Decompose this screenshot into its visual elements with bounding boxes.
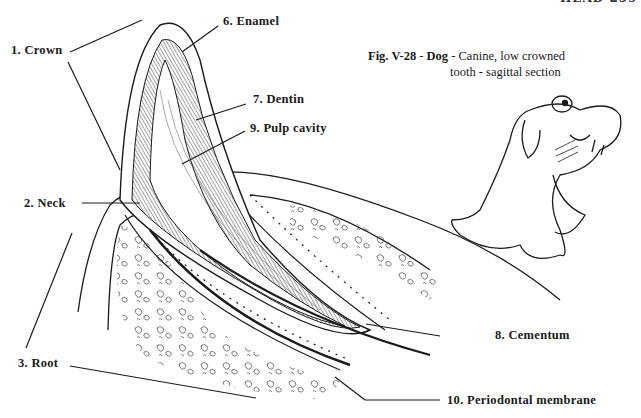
label-root: 3. Root bbox=[18, 356, 58, 371]
dog-head-illustration bbox=[452, 96, 621, 258]
label-crown: 1. Crown bbox=[11, 43, 62, 58]
label-periodontal-membrane: 10. Periodontal membrane bbox=[447, 393, 596, 408]
figure-caption: Fig. V-28 - Dog - Canine, low crowned to… bbox=[368, 48, 565, 80]
figure-number: Fig. V-28 bbox=[368, 49, 416, 63]
figure-caption-line2: tooth - sagittal section bbox=[368, 64, 565, 80]
label-enamel: 6. Enamel bbox=[223, 14, 279, 29]
label-pulp-cavity: 9. Pulp cavity bbox=[250, 121, 327, 136]
figure-caption-line1: Canine, low crowned bbox=[459, 49, 566, 63]
figure-species: Dog bbox=[427, 49, 449, 63]
label-dentin: 7. Dentin bbox=[253, 92, 304, 107]
label-cementum: 8. Cementum bbox=[495, 328, 570, 343]
label-neck: 2. Neck bbox=[24, 196, 66, 211]
